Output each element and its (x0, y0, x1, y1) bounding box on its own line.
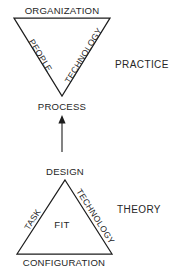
practice-top-label: ORGANIZATION (25, 5, 100, 16)
diagram-svg: ORGANIZATION PEOPLE TECHNOLOGY PROCESS P… (0, 0, 176, 277)
practice-section-label: PRACTICE (115, 59, 169, 70)
theory-apex-label: DESIGN (46, 166, 84, 177)
connector-arrow-head (58, 115, 65, 124)
theory-section-label: THEORY (117, 204, 161, 215)
practice-apex-label: PROCESS (38, 101, 86, 112)
diagram-canvas: ORGANIZATION PEOPLE TECHNOLOGY PROCESS P… (0, 0, 176, 277)
theory-base-label: CONFIGURATION (23, 257, 105, 268)
theory-right-edge-label: TECHNOLOGY (74, 187, 116, 246)
theory-center-label: FIT (54, 219, 70, 230)
practice-right-edge-label: TECHNOLOGY (63, 26, 104, 85)
practice-left-edge-label: PEOPLE (27, 37, 54, 73)
